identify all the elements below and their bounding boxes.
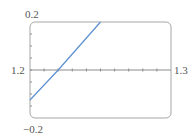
chart-canvas — [0, 0, 194, 139]
x-min-label: 1.2 — [11, 65, 25, 76]
y-max-label: 0.2 — [25, 9, 39, 20]
function-curve — [30, 22, 101, 100]
x-max-label: 1.3 — [174, 65, 188, 76]
y-min-label: −0.2 — [23, 124, 43, 135]
